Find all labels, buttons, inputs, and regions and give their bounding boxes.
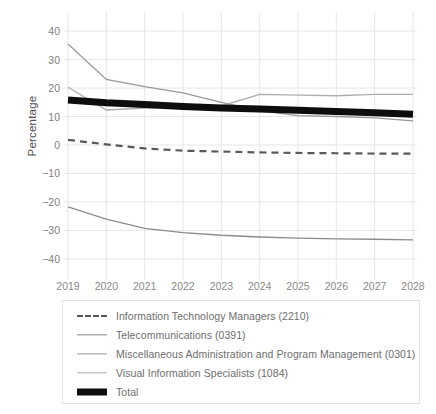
series-line-1 <box>68 207 413 240</box>
chart-legend: Information Technology Managers (2210)Te… <box>62 300 420 404</box>
legend-item[interactable]: Information Technology Managers (2210) <box>63 306 419 325</box>
legend-swatch-icon <box>77 330 107 340</box>
chart-container: Percentage 403020100−10−20−30−40 2019202… <box>0 0 436 414</box>
legend-item[interactable]: Telecommunications (0391) <box>63 325 419 344</box>
legend-swatch-icon <box>77 387 107 397</box>
legend-label: Total <box>116 386 138 398</box>
legend-swatch-icon <box>77 368 107 378</box>
series-line-0 <box>68 140 413 154</box>
legend-label: Information Technology Managers (2210) <box>116 310 309 322</box>
legend-item[interactable]: Miscellaneous Administration and Program… <box>63 344 419 363</box>
legend-label: Telecommunications (0391) <box>116 329 246 341</box>
legend-item[interactable]: Visual Information Specialists (1084) <box>63 363 419 382</box>
legend-item[interactable]: Total <box>63 382 419 401</box>
legend-swatch-icon <box>77 311 107 321</box>
legend-label: Visual Information Specialists (1084) <box>116 367 288 379</box>
legend-item-list: Information Technology Managers (2210)Te… <box>63 306 419 401</box>
series-lines <box>68 44 413 240</box>
legend-swatch-icon <box>77 349 107 359</box>
series-line-4 <box>68 100 413 114</box>
legend-label: Miscellaneous Administration and Program… <box>116 348 415 360</box>
